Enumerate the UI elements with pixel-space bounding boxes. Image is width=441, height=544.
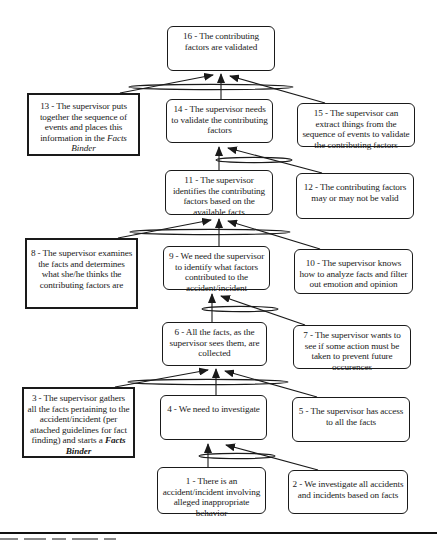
- goal-node-10: 10 - The supervisor knows how to analyze…: [294, 249, 413, 294]
- goal-node-11: 11 - The supervisor identifies the contr…: [165, 170, 273, 215]
- goal-node-9: 9 - We need the supervisor to identify w…: [163, 246, 270, 290]
- truncated-caption: [0, 538, 160, 544]
- node-4-text: 4 - We need to investigate: [167, 404, 260, 414]
- goal-node-15: 15 - The supervisor can extract things f…: [297, 103, 415, 147]
- and-join-9: [202, 294, 305, 325]
- node-11-text: 11 - The supervisor identifies the contr…: [173, 175, 265, 217]
- node-1-text: 1 - There is an accident/incident involv…: [163, 476, 261, 518]
- page-divider: [0, 532, 437, 534]
- action-node-8: 8 - The supervisor examines the facts an…: [25, 238, 138, 309]
- node-10-text: 10 - The supervisor knows how to analyze…: [300, 258, 408, 289]
- goal-node-4: 4 - We need to investigate: [160, 395, 267, 440]
- goal-node-1: 1 - There is an accident/incident involv…: [157, 467, 266, 514]
- node-5-text: 5 - The supervisor has access to all the…: [299, 406, 403, 427]
- node-6-text: 6 - All the facts, as the supervisor see…: [170, 327, 260, 358]
- node-12-text: 12 - The contributing factors may or may…: [304, 182, 407, 203]
- goal-node-6: 6 - All the facts, as the supervisor see…: [162, 322, 267, 366]
- action-node-3: 3 - The supervisor gathers all the facts…: [22, 387, 135, 458]
- goal-node-7: 7 - The supervisor wants to see if some …: [293, 325, 411, 369]
- node-15-text: 15 - The supervisor can extract things f…: [302, 108, 409, 150]
- node-8-text: 8 - The supervisor examines the facts an…: [31, 248, 132, 290]
- goal-node-2: 2 - We investigate all accidents and inc…: [288, 470, 408, 514]
- goal-node-16: 16 - The contributing factors are valida…: [167, 26, 275, 71]
- and-join-6: [115, 369, 317, 397]
- goal-node-5: 5 - The supervisor has access to all the…: [292, 397, 410, 442]
- node-14-text: 14 - The supervisor needs to validate th…: [171, 104, 267, 135]
- goal-structure-diagram: 16 - The contributing factors are valida…: [0, 0, 441, 544]
- and-join-11: [118, 219, 320, 249]
- node-16-text: 16 - The contributing factors are valida…: [183, 31, 259, 52]
- goal-node-12: 12 - The contributing factors may or may…: [296, 173, 414, 219]
- action-node-13: 13 - The supervisor puts together the se…: [27, 93, 140, 156]
- node-2-text: 2 - We investigate all accidents and inc…: [293, 479, 404, 500]
- goal-node-14: 14 - The supervisor needs to validate th…: [166, 99, 273, 143]
- node-7-text: 7 - The supervisor wants to see if some …: [303, 330, 400, 372]
- node-9-text: 9 - We need the supervisor to identify w…: [169, 251, 264, 293]
